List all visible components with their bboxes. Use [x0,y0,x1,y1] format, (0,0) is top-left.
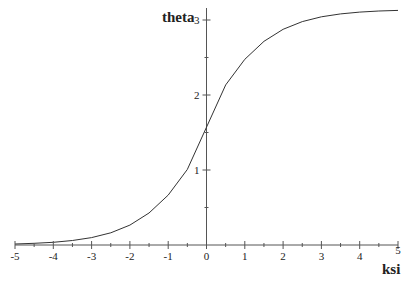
x-tick-label: -5 [10,250,20,262]
x-tick-label: 5 [395,244,401,256]
y-axis-title: theta [162,9,195,25]
x-tick-label: -1 [164,250,173,262]
chart: -5-4-3-2-1012345 123 theta ksi [0,0,408,281]
x-tick-label: -3 [87,250,97,262]
x-axis-title: ksi [382,261,400,277]
x-tick-label: 2 [280,250,286,262]
x-tick-label: -2 [125,250,134,262]
y-tick-label: 2 [194,89,200,101]
x-tick-label: 1 [242,250,248,262]
y-tick-label: 1 [194,164,200,176]
y-tick-label: 3 [194,14,200,26]
x-axis-ticks: -5-4-3-2-1012345 [10,241,401,262]
x-tick-label: 3 [319,250,325,262]
x-tick-label: -4 [49,250,59,262]
y-axis-ticks: 123 [194,14,211,208]
x-tick-label: 0 [204,250,210,262]
x-tick-label: 4 [357,250,363,262]
